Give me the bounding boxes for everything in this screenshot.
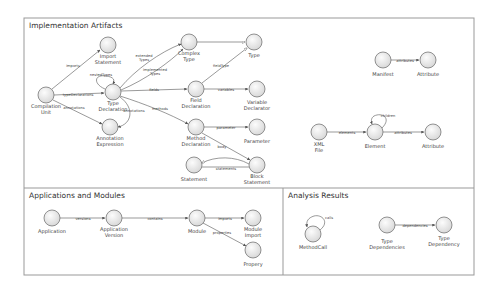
edge-label-manifest-attributes: attributes [396,59,414,63]
svg-text:Type: Type [247,52,259,59]
edge-statements-upper [202,158,249,164]
edge-label-field-type: fieldType [213,64,230,68]
panel-title-applications: Applications and Modules [29,191,125,200]
edge-label-nested-types: nestedTypes [90,73,113,77]
node-xml-file[interactable]: XMLFile [311,124,327,153]
svg-text:Element: Element [365,143,386,149]
edge-label-implemented-types: ImplementedTypes [143,68,167,76]
svg-text:MethodCall: MethodCall [299,244,327,250]
edge-label-statements: statements [216,167,237,171]
svg-text:Statement: Statement [181,176,207,182]
svg-text:Version: Version [105,232,123,238]
node-manifest-attribute[interactable]: Attribute [417,52,439,77]
edge-label-fields: fields [149,88,159,92]
svg-text:Type: Type [182,56,194,63]
edge-label-type-declarations: typeDeclarations [63,93,94,97]
svg-text:Parameter: Parameter [244,138,271,144]
edge-label-elements: elements [339,131,356,135]
svg-text:Dependencies: Dependencies [369,244,405,251]
node-application[interactable]: Application [38,210,66,235]
svg-text:Declaration: Declaration [99,106,128,112]
svg-text:Declaration: Declaration [182,103,211,109]
node-field-declaration[interactable]: FieldDeclaration [182,81,211,109]
edge-label-annotations-cu: annotations [63,106,84,110]
edge-imports [52,50,100,89]
nodes: CompilationUnit ImportStatement TypeDecl… [31,34,460,268]
svg-text:Attribute: Attribute [422,143,444,149]
node-module[interactable]: Module [188,210,206,234]
svg-text:Statement: Statement [244,179,270,185]
svg-text:Propery: Propery [243,261,262,268]
edge-label-properties: properties [213,231,231,235]
panel-title-implementation: Implementation Artifacts [29,21,122,30]
edge-label-element-attributes: attributes [394,131,412,135]
node-parameter[interactable]: Parameter [244,119,271,144]
svg-text:Manifest: Manifest [372,71,393,77]
node-statement[interactable]: Statement [181,157,207,182]
edge-label-versions: versions [75,217,90,221]
node-element-attribute[interactable]: Attribute [422,124,444,149]
node-type-dependencies[interactable]: TypeDependencies [369,217,405,251]
svg-text:Dependency: Dependency [428,241,460,248]
svg-text:Attribute: Attribute [417,71,439,77]
node-block-statement[interactable]: BlockStatement [244,157,270,185]
edge-extended-types [120,44,181,88]
svg-text:Unit: Unit [41,109,51,115]
node-complex-type[interactable]: ComplexType [178,34,200,63]
node-type-dependency[interactable]: TypeDependency [428,217,460,248]
node-type[interactable]: Type [246,34,262,59]
edge-label-contains: contains [147,217,162,221]
edge-label-body: body [218,145,228,149]
edge-label-calls: calls [325,216,333,220]
node-propery[interactable]: Propery [243,242,262,268]
edge-label-module-imports: imports [218,217,232,221]
edge-label-dependencies: dependencies [402,224,427,228]
svg-text:Declarator: Declarator [244,105,271,111]
svg-text:Expression: Expression [96,141,123,148]
edge-label-variables: variables [218,88,234,92]
panel-title-analysis: Analysis Results [288,191,348,200]
svg-text:Declaration: Declaration [182,141,211,147]
node-compilation-unit[interactable]: CompilationUnit [31,87,61,115]
svg-text:Application: Application [38,228,66,235]
svg-text:Statement: Statement [95,59,121,65]
edge-label-imports: imports [66,64,80,68]
svg-text:Module: Module [188,228,206,234]
edge-label-parameter: parameter [217,126,236,130]
edge-label-methods: methods [152,107,168,111]
node-method-call[interactable]: MethodCall [299,226,327,250]
edge-label-children: children [381,114,395,118]
node-application-version[interactable]: ApplicationVersion [100,210,128,238]
node-variable-declarator[interactable]: VariableDeclarator [244,81,271,111]
svg-text:File: File [315,147,323,153]
node-method-declaration[interactable]: MethodDeclaration [182,119,211,147]
node-manifest[interactable]: Manifest [372,52,393,77]
diagram-canvas: Implementation Artifacts Applications an… [0,0,498,292]
svg-text:Import: Import [245,232,262,239]
node-module-import[interactable]: ModuleImport [244,210,262,239]
